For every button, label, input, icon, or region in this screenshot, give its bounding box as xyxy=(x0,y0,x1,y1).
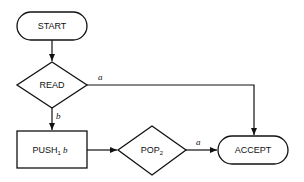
edge-label-a2: a xyxy=(196,137,201,147)
node-push: PUSH1 b xyxy=(17,131,87,168)
edge-label-b: b xyxy=(56,111,61,121)
node-pop: POP2 xyxy=(118,126,186,175)
edge-read-push: b xyxy=(52,108,61,130)
node-push-label: PUSH1 b xyxy=(32,145,68,156)
node-read-label: READ xyxy=(39,80,65,90)
edge-pop-accept: a xyxy=(186,137,217,150)
edge-read-accept: a xyxy=(87,72,254,135)
node-start: START xyxy=(17,12,87,40)
flowchart: a b a START READ PUSH1 b POP2 ACCEPT xyxy=(0,0,304,182)
node-start-label: START xyxy=(38,21,67,31)
node-accept-label: ACCEPT xyxy=(235,145,272,155)
node-read: READ xyxy=(17,62,87,108)
node-accept: ACCEPT xyxy=(218,136,288,164)
edge-label-a: a xyxy=(98,72,103,82)
